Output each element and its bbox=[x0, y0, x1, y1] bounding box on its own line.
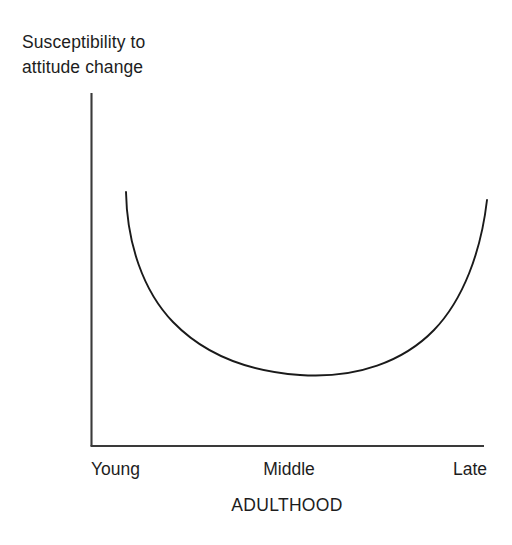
x-tick-label-middle: Middle bbox=[241, 458, 337, 480]
chart-figure: Susceptibility to attitude change Young … bbox=[0, 0, 512, 545]
x-axis-title: ADULTHOOD bbox=[187, 494, 387, 516]
susceptibility-curve bbox=[126, 192, 487, 376]
x-tick-label-late: Late bbox=[395, 458, 487, 480]
x-tick-label-young: Young bbox=[91, 458, 140, 480]
